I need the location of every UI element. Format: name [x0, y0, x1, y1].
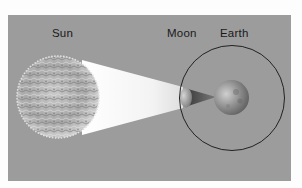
eclipse-scene [0, 0, 302, 188]
moon [180, 88, 192, 108]
shadow-cone [188, 89, 216, 106]
earth [214, 80, 249, 115]
moon-label: Moon [167, 28, 197, 40]
sun [17, 56, 99, 138]
earth-label: Earth [220, 28, 249, 40]
sun-label: Sun [52, 28, 73, 40]
